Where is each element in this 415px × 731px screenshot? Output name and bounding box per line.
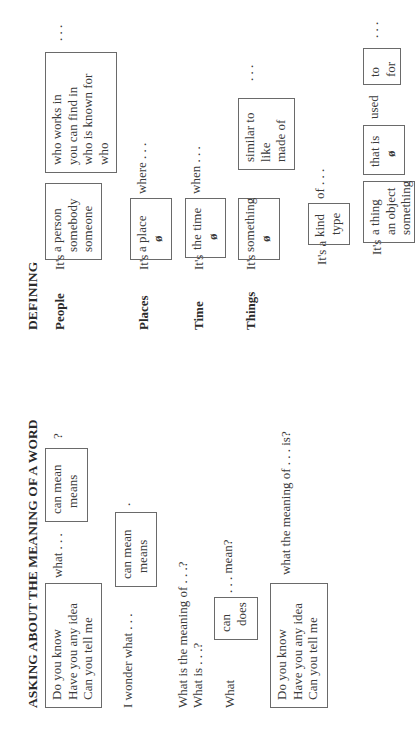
relations-box: similar to like made of bbox=[238, 98, 295, 170]
mean-question: . . . mean? bbox=[220, 540, 235, 593]
verb-text: can mean bbox=[119, 513, 135, 579]
things-box: something ø bbox=[238, 198, 280, 260]
relation-text: like bbox=[258, 99, 274, 162]
noun-text: a place bbox=[134, 199, 150, 252]
rotated-page: ASKING ABOUT THE MEANING OF A WORD Do yo… bbox=[0, 0, 415, 731]
people-clauses-box: who works in you can find in who is know… bbox=[45, 52, 117, 173]
null-symbol: ø bbox=[150, 199, 166, 252]
of-text: of . . . bbox=[312, 169, 327, 199]
prep-text: to bbox=[367, 49, 383, 77]
opener-text: Have you any idea bbox=[290, 584, 306, 700]
clause-text: who bbox=[96, 53, 112, 165]
noun-text: an object bbox=[383, 182, 399, 235]
places-box: a place ø bbox=[130, 198, 172, 260]
verbs-box-2: can mean means bbox=[115, 512, 157, 587]
null-symbol: ø bbox=[205, 199, 221, 250]
null-symbol: ø bbox=[258, 199, 274, 252]
noun-text: the time bbox=[189, 199, 205, 250]
that-is-box: that is ø bbox=[363, 125, 405, 175]
ellipsis: . . . bbox=[241, 65, 256, 81]
aux-text: does bbox=[234, 598, 250, 632]
verbs-box-1: can mean means bbox=[45, 448, 88, 522]
clause-text: who works in bbox=[49, 53, 65, 165]
connector-what: what . . . bbox=[50, 533, 65, 578]
kind-box: kind type bbox=[308, 203, 350, 245]
opener-text: Have you any idea bbox=[65, 584, 81, 700]
verb-text: can mean bbox=[49, 449, 65, 514]
thing-nouns-box: a thing an object something bbox=[363, 181, 415, 243]
asking-heading: ASKING ABOUT THE MEANING OF A WORD bbox=[25, 419, 40, 708]
prep-box: to for bbox=[363, 48, 401, 85]
used-text: used bbox=[366, 95, 381, 119]
ellipsis: . . . bbox=[50, 25, 65, 41]
openers-box-2: Do you know Have you any idea Can you te… bbox=[270, 583, 328, 708]
full-stop: . bbox=[118, 503, 133, 506]
noun-text: someone bbox=[80, 184, 96, 252]
clause-text: who is known for bbox=[80, 53, 96, 165]
noun-text: somebody bbox=[65, 184, 81, 252]
question-mark: ? bbox=[50, 433, 65, 439]
verb-text: means bbox=[65, 449, 81, 514]
noun-text: a thing bbox=[367, 182, 383, 235]
noun-text: something bbox=[242, 199, 258, 252]
label-places: Places bbox=[136, 295, 151, 330]
relation-text: made of bbox=[273, 99, 289, 162]
noun-text: a person bbox=[49, 184, 65, 252]
when-text: when . . . bbox=[188, 146, 203, 194]
opener-text: Do you know bbox=[49, 584, 65, 700]
what-is-meaning-text: What is the meaning of . . .? bbox=[175, 561, 190, 708]
where-text: where . . . bbox=[134, 143, 149, 194]
kind-text: type bbox=[328, 204, 344, 237]
people-nouns-box: a person somebody someone bbox=[45, 183, 102, 260]
kind-text: kind bbox=[312, 204, 328, 237]
i-wonder-text: I wonder what . . . bbox=[120, 613, 135, 708]
prep-text: for bbox=[383, 49, 399, 77]
label-things: Things bbox=[243, 292, 258, 330]
noun-text: something bbox=[398, 182, 414, 235]
aux-text: can bbox=[218, 598, 234, 632]
relation-text: similar to bbox=[242, 99, 258, 162]
what-is-text: What is . . .? bbox=[190, 643, 205, 708]
aux-box: can does bbox=[214, 597, 258, 640]
openers-box-1: Do you know Have you any idea Can you te… bbox=[45, 583, 102, 708]
opener-text: Can you tell me bbox=[305, 584, 321, 700]
ellipsis: . . . bbox=[366, 22, 381, 38]
defining-heading: DEFINING bbox=[25, 262, 40, 330]
clause-text: you can find in bbox=[65, 53, 81, 165]
opener-text: Do you know bbox=[274, 584, 290, 700]
what-text: What bbox=[222, 680, 237, 708]
verb-text: means bbox=[135, 513, 151, 579]
time-box: the time ø bbox=[185, 198, 226, 258]
label-time: Time bbox=[191, 301, 206, 330]
that-is-text: that is bbox=[367, 126, 383, 167]
what-the-meaning-is: what the meaning of . . . is? bbox=[278, 431, 293, 575]
null-symbol: ø bbox=[383, 126, 399, 167]
opener-text: Can you tell me bbox=[80, 584, 96, 700]
label-people: People bbox=[52, 293, 67, 330]
